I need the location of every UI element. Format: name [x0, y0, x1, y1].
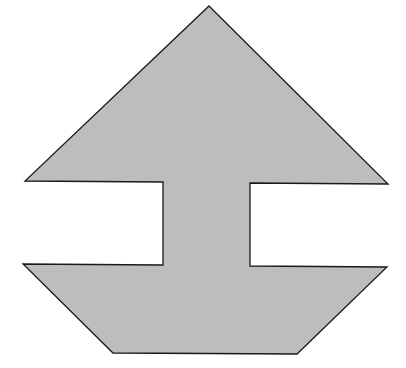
composite-polygon-shape: [23, 6, 388, 354]
figure-canvas: [0, 0, 406, 368]
